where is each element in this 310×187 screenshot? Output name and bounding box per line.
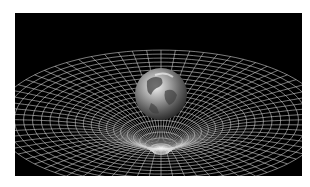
spacetime-illustration [15, 13, 302, 176]
gravity-well-graphic [15, 13, 302, 176]
earth-globe [135, 68, 187, 120]
well-bottom-glow [147, 143, 175, 153]
